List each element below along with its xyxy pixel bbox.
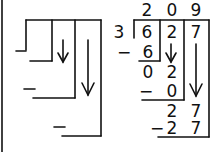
subtract-value: 6 — [143, 42, 154, 62]
minus-sign: − — [150, 118, 164, 138]
template-panel — [16, 20, 101, 136]
minus-sign: − — [117, 42, 131, 62]
subtract-value: 2 — [167, 118, 178, 138]
quotient-digit: 2 — [142, 0, 153, 20]
divisor: 3 — [114, 22, 125, 42]
down-arrow-icon — [58, 40, 68, 62]
long-division-diagram: 2 0 9 3 6 2 7 − 6 0 2 − 0 2 7 − 2 7 — [0, 0, 221, 152]
down-arrow-icon — [190, 44, 202, 96]
brought-down-digit: 2 — [167, 62, 178, 82]
subtract-value: 0 — [167, 81, 178, 101]
worked-example: 2 0 9 3 6 2 7 − 6 0 2 − 0 2 7 − 2 7 — [114, 0, 209, 138]
dividend-digit: 2 — [167, 22, 178, 42]
dividend-digit: 6 — [142, 22, 153, 42]
down-arrow-icon — [82, 40, 94, 95]
quotient-digit: 0 — [167, 0, 178, 20]
dividend-digit: 7 — [191, 22, 202, 42]
remainder-digit: 0 — [143, 62, 154, 82]
down-arrow-icon — [166, 44, 176, 62]
subtract-value: 7 — [191, 118, 202, 138]
minus-sign: − — [139, 81, 153, 101]
quotient-digit: 9 — [191, 0, 202, 20]
